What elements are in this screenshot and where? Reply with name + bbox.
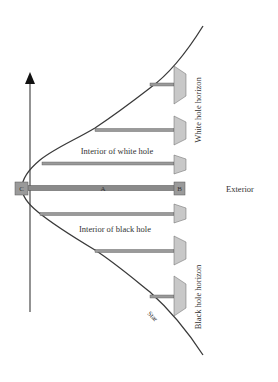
exterior-label: Exterior — [226, 184, 254, 194]
plate — [174, 236, 186, 265]
white-hole-plates — [174, 66, 186, 174]
plate — [174, 155, 186, 174]
strut — [40, 213, 174, 216]
black-hole-horizon-label: Black hole horizon — [193, 264, 203, 329]
interior-white-hole-label: Interior of white hole — [81, 146, 154, 156]
plate — [174, 276, 186, 316]
point-c-box: C — [15, 182, 28, 195]
penrose-style-diagram: C B A Interior of white hole Interior of… — [0, 0, 278, 382]
strut — [150, 295, 174, 298]
point-b-box: B — [174, 182, 185, 195]
point-a-label: A — [100, 185, 105, 193]
plate — [174, 66, 186, 104]
arrow-up-icon — [25, 72, 35, 84]
strut — [42, 162, 174, 165]
interior-black-hole-label: Interior of black hole — [79, 224, 151, 234]
star-label: Star — [146, 310, 160, 324]
strut — [95, 129, 174, 132]
plate — [174, 204, 186, 223]
plate — [174, 116, 186, 145]
point-b-label: B — [177, 185, 182, 193]
strut — [150, 83, 174, 86]
white-hole-horizon-label: White hole horizon — [193, 76, 203, 142]
strut — [95, 250, 174, 253]
point-c-label: C — [19, 185, 24, 193]
black-hole-plates — [174, 204, 186, 316]
